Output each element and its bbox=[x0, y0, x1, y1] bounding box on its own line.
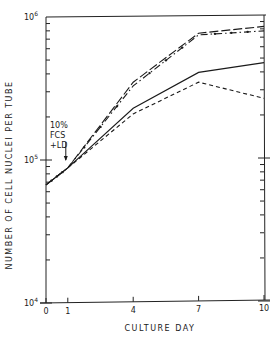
x-tick-label: 4 bbox=[131, 306, 136, 315]
data-series bbox=[46, 26, 264, 185]
line-chart: 104105106 014710 10%FCS+LD CULTURE DAY N… bbox=[0, 0, 280, 337]
series-long-dash bbox=[46, 26, 264, 185]
x-axis-ticks: 014710 bbox=[43, 295, 269, 316]
x-tick-label: 0 bbox=[43, 307, 48, 316]
series-short-dash bbox=[46, 82, 264, 185]
x-tick-label: 7 bbox=[196, 305, 201, 314]
y-tick-label: 106 bbox=[24, 10, 38, 22]
y-tick-label: 105 bbox=[24, 153, 38, 165]
annotation-line: 10% bbox=[50, 121, 68, 130]
y-axis-ticks: 104105106 bbox=[24, 10, 270, 308]
x-axis-label: CULTURE DAY bbox=[125, 324, 196, 333]
x-tick-label: 1 bbox=[65, 307, 70, 316]
series-solid bbox=[46, 63, 264, 185]
annotation-line: FCS bbox=[50, 131, 65, 140]
annotation: 10%FCS+LD bbox=[50, 121, 68, 161]
y-tick-label: 104 bbox=[24, 296, 38, 308]
annotation-line: +LD bbox=[50, 141, 67, 150]
series-dash-dot bbox=[46, 31, 264, 185]
x-tick-label: 10 bbox=[259, 304, 269, 313]
y-axis-label: NUMBER OF CELL NUCLEI PER TUBE bbox=[5, 80, 14, 269]
